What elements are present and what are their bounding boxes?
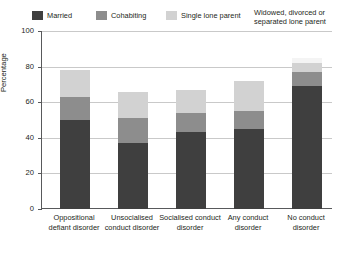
y-tick-mark-20	[38, 173, 42, 174]
bar-segment-4-1	[234, 129, 264, 209]
bar-5	[292, 58, 322, 209]
y-axis-title: Percentage	[0, 53, 8, 92]
y-tick-label-20: 20	[12, 168, 34, 177]
x-axis-label-5: No conduct disorder	[275, 213, 337, 232]
plot-area: 020406080100	[41, 31, 331, 209]
bar-segment-5-2	[292, 72, 322, 86]
x-axis-label-3: Socialised conduct disorder	[159, 213, 221, 232]
chart-legend: Married Cohabiting Single lone parent Wi…	[0, 0, 338, 32]
y-tick-mark-60	[38, 102, 42, 103]
gridline-100	[42, 31, 332, 32]
bar-segment-3-3	[176, 90, 206, 113]
legend-swatch-married	[32, 11, 43, 20]
bar-segment-1-1	[60, 120, 90, 209]
bar-segment-5-3	[292, 63, 322, 72]
bar-segment-2-2	[118, 118, 148, 143]
bar-segment-5-1	[292, 86, 322, 209]
bar-segment-1-2	[60, 97, 90, 120]
legend-label-cohabiting: Cohabiting	[111, 11, 146, 20]
y-tick-label-40: 40	[12, 133, 34, 142]
legend-label-widowed-divorced-separated: Widowed, divorced or separated lone pare…	[254, 8, 338, 27]
bar-segment-3-1	[176, 132, 206, 209]
y-tick-label-100: 100	[12, 26, 34, 35]
bar-1	[60, 70, 90, 209]
gridline-80	[42, 67, 332, 68]
bar-segment-3-2	[176, 113, 206, 133]
bar-segment-2-3	[118, 92, 148, 119]
legend-item-single-lone-parent: Single lone parent	[166, 11, 241, 20]
legend-label-married: Married	[47, 11, 72, 20]
bar-4	[234, 81, 264, 209]
legend-swatch-cohabiting	[96, 11, 107, 20]
y-tick-mark-0	[38, 209, 42, 210]
y-tick-label-0: 0	[12, 204, 34, 213]
y-tick-mark-80	[38, 67, 42, 68]
y-tick-mark-100	[38, 31, 42, 32]
y-tick-mark-40	[38, 138, 42, 139]
stacked-bar-chart: Married Cohabiting Single lone parent Wi…	[0, 0, 338, 263]
bar-segment-2-1	[118, 143, 148, 209]
legend-label-single-lone-parent: Single lone parent	[181, 11, 241, 20]
y-tick-label-80: 80	[12, 62, 34, 71]
x-axis-label-4: Any conduct disorder	[217, 213, 279, 232]
bar-segment-4-2	[234, 111, 264, 129]
y-tick-label-60: 60	[12, 97, 34, 106]
bar-2	[118, 92, 148, 209]
bar-segment-1-3	[60, 70, 90, 97]
legend-item-married: Married	[32, 11, 72, 20]
bar-3	[176, 90, 206, 209]
x-axis-label-1: Oppositional defiant disorder	[43, 213, 105, 232]
legend-item-widowed-divorced-separated: Widowed, divorced or separated lone pare…	[254, 8, 338, 27]
bar-segment-4-3	[234, 81, 264, 111]
x-axis-label-2: Unsocialised conduct disorder	[101, 213, 163, 232]
legend-item-cohabiting: Cohabiting	[96, 11, 146, 20]
legend-swatch-single-lone-parent	[166, 11, 177, 20]
